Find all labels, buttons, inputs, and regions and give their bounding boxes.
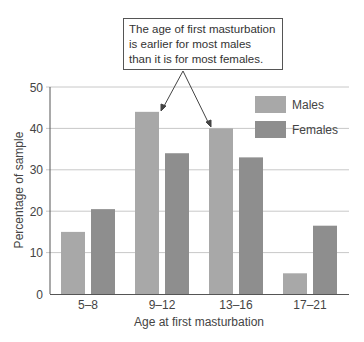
x-axis-title: Age at first masturbation [134,315,264,329]
bar-males [61,232,85,294]
x-tick-label: 5–8 [78,298,98,312]
x-tick-label: 17–21 [293,298,327,312]
y-tick-label: 0 [36,288,43,302]
legend: Males Females [255,96,338,138]
legend-label-females: Females [292,123,338,137]
legend-swatch-males [255,96,286,113]
y-axis-ticks: 01020304050 [30,81,44,302]
y-tick-label: 10 [30,246,44,260]
y-tick-label: 40 [30,122,44,136]
bar-females [239,157,263,294]
bar-males [135,112,159,294]
x-axis-ticks: 5–89–1213–1617–21 [78,298,327,312]
bar-females [313,226,337,294]
legend-label-males: Males [292,98,324,112]
bar-males [209,128,233,294]
annotation-line-2: is earlier for most males [129,37,278,52]
x-tick-label: 9–12 [149,298,176,312]
bar-females [91,209,115,294]
bar-males [283,273,307,294]
y-tick-label: 20 [30,205,44,219]
x-tick-label: 13–16 [219,298,253,312]
annotation-arrows [161,71,211,127]
annotation-line-3: than it is for most females. [129,52,278,67]
annotation-line-1: The age of first masturbation [129,22,278,37]
bars [61,112,337,294]
y-tick-label: 50 [30,81,44,95]
y-tick-label: 30 [30,163,44,177]
y-axis-title: Percentage of sample [12,131,26,248]
legend-swatch-females [255,121,286,138]
bar-females [165,153,189,294]
annotation-box: The age of first masturbation is earlier… [123,18,283,70]
